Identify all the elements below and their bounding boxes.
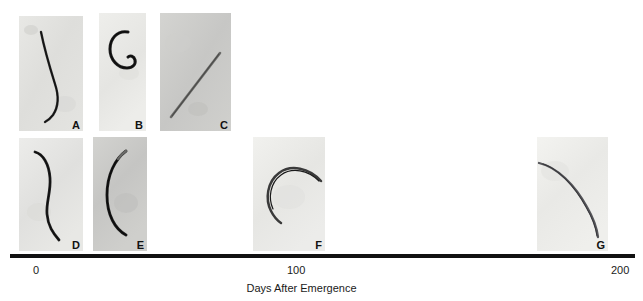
panel-b-image — [99, 13, 146, 131]
panel-label-d: D — [72, 239, 80, 251]
micrograph-panel-f: F — [253, 137, 325, 251]
time-axis-line — [10, 254, 635, 258]
panel-label-g: G — [596, 239, 605, 251]
panel-c-image — [160, 13, 231, 131]
figure-plate: A B — [0, 0, 643, 301]
panel-g-image — [537, 137, 608, 251]
axis-title: Days After Emergence — [0, 282, 643, 294]
micrograph-panel-g: G — [537, 137, 608, 251]
axis-tick-0: 0 — [33, 264, 39, 276]
panel-label-f: F — [315, 239, 322, 251]
micrograph-panel-d: D — [19, 138, 83, 251]
panel-label-b: B — [135, 119, 143, 131]
panel-d-image — [19, 138, 83, 251]
micrograph-panel-b: B — [99, 13, 146, 131]
panel-label-a: A — [72, 119, 80, 131]
panel-a-image — [19, 16, 83, 131]
micrograph-panel-a: A — [19, 16, 83, 131]
panel-f-image — [253, 137, 325, 251]
axis-title-text: Days After Emergence — [246, 282, 356, 294]
panel-label-e: E — [137, 239, 144, 251]
panel-e-image — [93, 137, 147, 251]
panel-label-c: C — [220, 119, 228, 131]
micrograph-panel-c: C — [160, 13, 231, 131]
axis-tick-100: 100 — [287, 264, 305, 276]
axis-tick-200: 200 — [611, 264, 629, 276]
micrograph-panel-e: E — [93, 137, 147, 251]
